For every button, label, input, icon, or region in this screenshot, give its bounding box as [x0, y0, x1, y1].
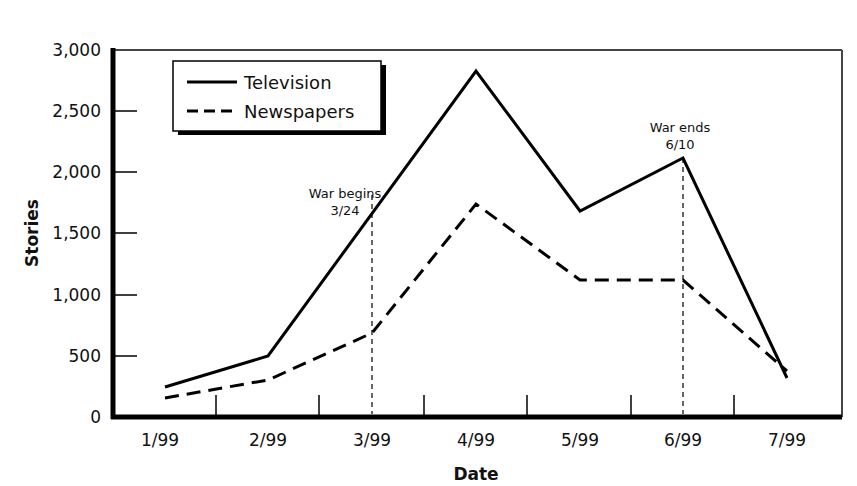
x-tick-label: 1/99: [141, 430, 179, 450]
y-axis-title: Stories: [22, 199, 42, 267]
x-tick-label: 2/99: [249, 430, 287, 450]
x-axis-title: Date: [453, 464, 498, 484]
x-tick-label: 7/99: [768, 430, 806, 450]
y-tick-label: 3,000: [52, 40, 101, 60]
legend-label-television: Television: [243, 72, 332, 93]
y-ticks: [113, 111, 137, 356]
x-tick-labels: 1/99 2/99 3/99 4/99 5/99 6/99 7/99: [141, 430, 806, 450]
line-chart: 0 500 1,000 1,500 2,000 2,500 3,000 1/99…: [0, 0, 857, 486]
y-tick-label: 2,500: [52, 101, 101, 121]
x-tick-label: 3/99: [353, 430, 391, 450]
war-begins-date: 3/24: [330, 203, 359, 218]
x-tick-label: 4/99: [457, 430, 495, 450]
war-begins-label: War begins: [309, 186, 382, 201]
legend-label-newspapers: Newspapers: [244, 101, 354, 122]
war-ends-label: War ends: [650, 120, 711, 135]
y-tick-label: 0: [90, 407, 101, 427]
y-tick-label: 1,500: [52, 223, 101, 243]
x-tick-label: 6/99: [664, 430, 702, 450]
legend: Television Newspapers: [173, 61, 386, 135]
y-tick-label: 500: [69, 346, 101, 366]
y-tick-labels: 0 500 1,000 1,500 2,000 2,500 3,000: [52, 40, 101, 427]
x-ticks: [216, 395, 734, 417]
y-tick-label: 1,000: [52, 285, 101, 305]
series-newspapers: [165, 204, 787, 398]
war-ends-date: 6/10: [665, 137, 694, 152]
y-tick-label: 2,000: [52, 162, 101, 182]
x-tick-label: 5/99: [561, 430, 599, 450]
